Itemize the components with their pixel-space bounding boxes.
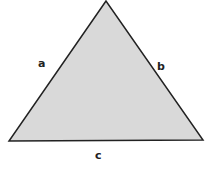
triangle-diagram: a b c — [0, 0, 215, 177]
triangle-svg: a b c — [0, 0, 215, 177]
side-label-b: b — [157, 60, 165, 73]
side-label-c: c — [95, 149, 102, 162]
side-label-a: a — [38, 57, 45, 70]
triangle-shape — [9, 1, 203, 141]
